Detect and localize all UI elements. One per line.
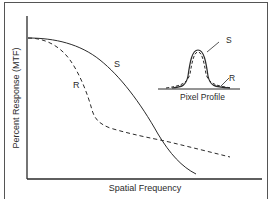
- inset-pixel-profile: [158, 42, 240, 89]
- inset-s-leader: [207, 42, 219, 52]
- y-axis-label: Percent Response (MTF): [11, 47, 21, 148]
- inset-r-line: [166, 52, 232, 88]
- mtf-chart: [0, 0, 270, 199]
- inset-s-line: [172, 50, 230, 88]
- series-s-label: S: [114, 59, 120, 69]
- outer-frame: [5, 3, 268, 200]
- inset-r-leader: [221, 78, 229, 86]
- inset-s-label: S: [226, 35, 232, 45]
- x-axis-label: Spatial Frequency: [0, 183, 270, 193]
- series-s-line: [28, 38, 196, 174]
- inset-r-label: R: [229, 73, 235, 83]
- inset-title: Pixel Profile: [180, 92, 225, 102]
- series-r-label: R: [73, 80, 80, 90]
